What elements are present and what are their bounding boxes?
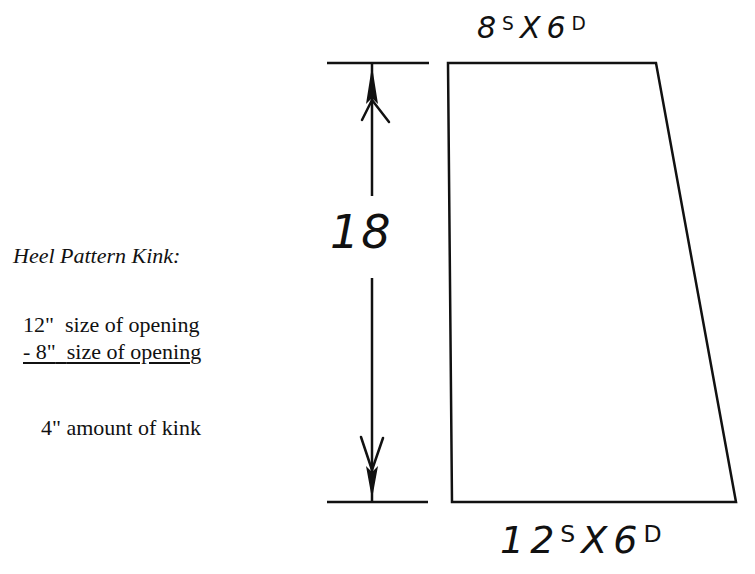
note-value: 12" [23, 312, 54, 337]
note-text: size of opening [65, 312, 199, 337]
note-text: size of opening [67, 339, 201, 364]
height-dimension-label: 18 [330, 205, 393, 259]
note-line-opening-large: 12" size of opening [23, 312, 199, 338]
note-text: amount of kink [66, 415, 200, 440]
top-spec-superscript: S [502, 13, 520, 34]
diagram-canvas [0, 0, 755, 574]
top-spec-number: 8 [477, 10, 502, 45]
bottom-spec-superscript: S [560, 520, 581, 548]
note-value: - 8" [23, 339, 56, 364]
top-size-spec: 8SX6D [477, 10, 592, 45]
note-value: 4" [41, 415, 61, 440]
bottom-size-spec: 12SX6D [500, 518, 668, 562]
heel-pattern-trapezoid [448, 63, 736, 502]
bottom-spec-superscript-2: D [644, 520, 668, 548]
bottom-spec-value: 6 [613, 518, 643, 562]
bottom-spec-number: 12 [500, 518, 560, 562]
top-spec-value: 6 [546, 10, 571, 45]
arrow-up-icon [362, 66, 389, 122]
notes-title: Heel Pattern Kink: [13, 243, 180, 269]
top-spec-superscript-2: D [572, 13, 592, 34]
bottom-spec-x: X [581, 518, 613, 562]
note-line-opening-small: - 8" size of opening [23, 339, 201, 365]
note-line-kink-amount: 4" amount of kink [41, 415, 201, 441]
top-spec-x: X [520, 10, 547, 45]
